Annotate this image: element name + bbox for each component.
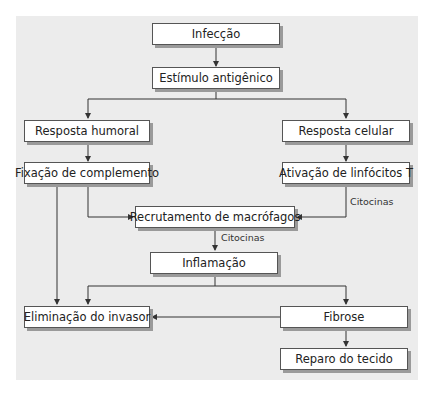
node-eliminacao-invasor: Eliminação do invasor [24,306,150,328]
edge-label-citocinas: Citocinas [221,232,264,243]
node-inflamacao: Inflamação [150,252,278,274]
node-fixacao-complemento: Fixação de complemento [24,162,150,184]
node-resposta-humoral: Resposta humoral [24,120,150,142]
node-fibrose: Fibrose [280,306,408,328]
node-reparo-tecido: Reparo do tecido [280,348,408,370]
node-recrutamento-macrofagos: Recrutamento de macrófagos [135,206,295,228]
node-ativacao-linfocitos: Ativação de linfócitos T [282,162,410,184]
edge-label-citocinas: Citocinas [350,196,393,207]
node-resposta-celular: Resposta celular [282,120,410,142]
node-infeccao: Infecção [152,23,280,45]
node-estimulo-antigenico: Estímulo antigênico [152,67,280,89]
